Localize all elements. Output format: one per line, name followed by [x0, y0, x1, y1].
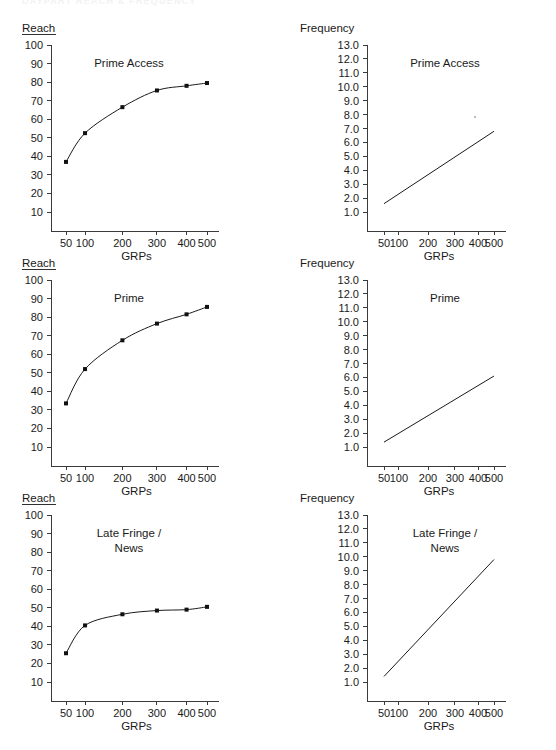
svg-text:100: 100	[76, 237, 94, 249]
svg-text:200: 200	[113, 707, 131, 719]
svg-text:News: News	[431, 542, 460, 554]
chart-frequency-late-fringe-news: Frequency13.012.011.010.09.08.07.06.05.0…	[278, 486, 556, 736]
svg-text:90: 90	[31, 293, 43, 305]
svg-text:30: 30	[31, 639, 43, 651]
svg-text:100: 100	[25, 274, 43, 286]
chart-reach-prime: Reach10090807060504030201050100200300400…	[0, 251, 278, 501]
chart-frequency-prime-access: Frequency13.012.011.010.09.08.07.06.05.0…	[278, 16, 556, 266]
svg-text:50: 50	[378, 237, 390, 249]
svg-text:50: 50	[60, 472, 72, 484]
svg-text:3.0: 3.0	[344, 178, 359, 190]
svg-text:300: 300	[148, 472, 166, 484]
svg-text:Prime Access: Prime Access	[410, 57, 480, 69]
svg-text:50: 50	[31, 132, 43, 144]
svg-text:60: 60	[31, 348, 43, 360]
svg-text:12.0: 12.0	[338, 288, 359, 300]
svg-text:2.0: 2.0	[344, 662, 359, 674]
svg-text:30: 30	[31, 404, 43, 416]
svg-text:6.0: 6.0	[344, 371, 359, 383]
svg-text:400: 400	[177, 472, 195, 484]
svg-text:100: 100	[390, 237, 408, 249]
svg-text:40: 40	[31, 620, 43, 632]
svg-text:8.0: 8.0	[344, 344, 359, 356]
svg-text:6.0: 6.0	[344, 136, 359, 148]
svg-text:10: 10	[31, 206, 43, 218]
svg-text:50: 50	[378, 472, 390, 484]
svg-text:100: 100	[25, 39, 43, 51]
chart-reach-late-fringe-news: Reach10090807060504030201050100200300400…	[0, 486, 278, 736]
svg-text:30: 30	[31, 169, 43, 181]
svg-text:300: 300	[148, 707, 166, 719]
svg-text:50: 50	[60, 237, 72, 249]
svg-text:Late Fringe /: Late Fringe /	[413, 527, 478, 539]
svg-text:1.0: 1.0	[344, 676, 359, 688]
svg-text:500: 500	[198, 472, 216, 484]
svg-text:10.0: 10.0	[338, 551, 359, 563]
cut-off-header: DAYPART REACH & FREQUENCY	[22, 0, 197, 6]
svg-text:200: 200	[113, 472, 131, 484]
svg-text:News: News	[115, 542, 144, 554]
svg-text:200: 200	[419, 472, 437, 484]
svg-text:400: 400	[177, 707, 195, 719]
svg-text:10.0: 10.0	[338, 316, 359, 328]
svg-text:Prime Access: Prime Access	[94, 57, 164, 69]
svg-text:11.0: 11.0	[338, 302, 359, 314]
svg-text:Frequency: Frequency	[300, 22, 355, 34]
svg-text:6.0: 6.0	[344, 606, 359, 618]
svg-text:7.0: 7.0	[344, 593, 359, 605]
svg-text:40: 40	[31, 385, 43, 397]
svg-text:80: 80	[31, 546, 43, 558]
svg-text:Prime: Prime	[430, 292, 460, 304]
svg-text:13.0: 13.0	[338, 274, 359, 286]
svg-text:GRPs: GRPs	[424, 720, 455, 732]
svg-text:200: 200	[113, 237, 131, 249]
svg-text:200: 200	[419, 707, 437, 719]
svg-text:100: 100	[390, 472, 408, 484]
svg-text:500: 500	[485, 707, 503, 719]
svg-text:90: 90	[31, 528, 43, 540]
svg-text:100: 100	[390, 707, 408, 719]
svg-text:500: 500	[198, 707, 216, 719]
svg-text:Reach: Reach	[22, 257, 55, 269]
svg-text:50: 50	[378, 707, 390, 719]
svg-text:400: 400	[177, 237, 195, 249]
svg-text:80: 80	[31, 76, 43, 88]
svg-text:5.0: 5.0	[344, 150, 359, 162]
svg-text:11.0: 11.0	[338, 67, 359, 79]
svg-text:300: 300	[446, 707, 464, 719]
svg-text:2.0: 2.0	[344, 192, 359, 204]
svg-text:8.0: 8.0	[344, 579, 359, 591]
svg-text:13.0: 13.0	[338, 39, 359, 51]
svg-text:4.0: 4.0	[344, 399, 359, 411]
svg-text:4.0: 4.0	[344, 634, 359, 646]
chart-frequency-prime: Frequency13.012.011.010.09.08.07.06.05.0…	[278, 251, 556, 501]
svg-text:12.0: 12.0	[338, 523, 359, 535]
svg-text:50: 50	[31, 602, 43, 614]
svg-text:9.0: 9.0	[344, 95, 359, 107]
svg-text:GRPs: GRPs	[121, 720, 152, 732]
svg-text:300: 300	[446, 237, 464, 249]
figure-panel: DAYPART REACH & FREQUENCY Reach100908070…	[0, 0, 556, 750]
svg-text:10.0: 10.0	[338, 81, 359, 93]
svg-text:Late Fringe /: Late Fringe /	[97, 527, 162, 539]
svg-text:300: 300	[148, 237, 166, 249]
svg-text:12.0: 12.0	[338, 53, 359, 65]
svg-text:1.0: 1.0	[344, 206, 359, 218]
svg-text:9.0: 9.0	[344, 565, 359, 577]
svg-text:8.0: 8.0	[344, 109, 359, 121]
svg-text:50: 50	[31, 367, 43, 379]
svg-text:3.0: 3.0	[344, 648, 359, 660]
svg-text:1.0: 1.0	[344, 441, 359, 453]
svg-text:Prime: Prime	[114, 292, 144, 304]
svg-text:10: 10	[31, 441, 43, 453]
svg-text:Reach: Reach	[22, 22, 55, 34]
svg-text:70: 70	[31, 330, 43, 342]
chart-reach-prime-access: Reach10090807060504030201050100200300400…	[0, 16, 278, 266]
svg-text:80: 80	[31, 311, 43, 323]
svg-text:500: 500	[485, 472, 503, 484]
svg-text:300: 300	[446, 472, 464, 484]
svg-text:Frequency: Frequency	[300, 257, 355, 269]
svg-text:5.0: 5.0	[344, 620, 359, 632]
svg-text:40: 40	[31, 150, 43, 162]
svg-text:9.0: 9.0	[344, 330, 359, 342]
